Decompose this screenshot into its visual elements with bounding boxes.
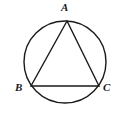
vertex-label-c: C — [103, 82, 110, 93]
vertex-label-a: A — [61, 2, 68, 13]
vertex-label-b: B — [15, 82, 22, 93]
circumscribed-circle — [24, 21, 106, 103]
inscribed-triangle — [31, 21, 99, 86]
geometry-drawing — [0, 0, 120, 118]
geometry-figure: A B C — [0, 0, 120, 118]
